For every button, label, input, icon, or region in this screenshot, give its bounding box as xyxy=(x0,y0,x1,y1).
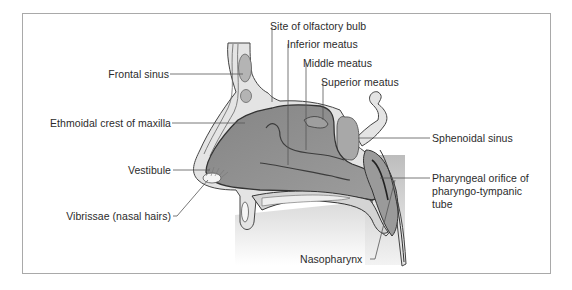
nasal-cavity-illustration xyxy=(0,0,572,290)
label-frontal-sinus: Frontal sinus xyxy=(108,68,169,80)
sphenoidal-sinus xyxy=(337,117,359,160)
label-site-of-olfactory-bulb: Site of olfactory bulb xyxy=(270,20,366,32)
frontal-sinus-lower xyxy=(241,90,252,103)
label-middle-meatus: Middle meatus xyxy=(303,57,372,69)
label-vibrissae: Vibrissae (nasal hairs) xyxy=(66,210,171,222)
frontal-sinus-upper xyxy=(239,54,252,82)
label-nasopharynx: Nasopharynx xyxy=(300,253,362,265)
label-sphenoidal-sinus: Sphenoidal sinus xyxy=(432,132,513,144)
label-superior-meatus: Superior meatus xyxy=(321,76,399,88)
label-vestibule: Vestibule xyxy=(128,164,171,176)
vestibule-opening xyxy=(203,173,221,183)
label-pharyngeal-orifice: Pharyngeal orifice of pharyngo-tympanic … xyxy=(432,172,542,211)
incisor-tooth xyxy=(242,202,249,222)
label-ethmoidal-crest-of-maxilla: Ethmoidal crest of maxilla xyxy=(50,117,171,129)
label-inferior-meatus: Inferior meatus xyxy=(287,38,358,50)
